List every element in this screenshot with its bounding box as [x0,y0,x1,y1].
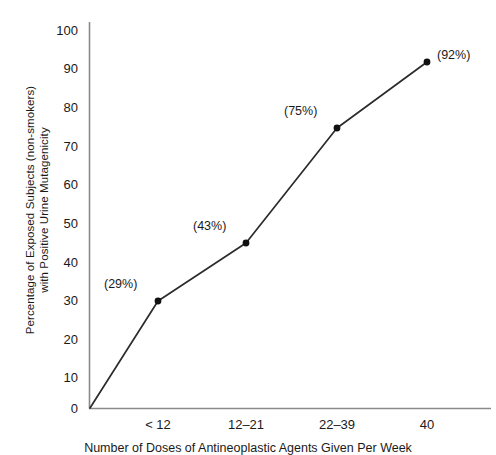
x-tick-label-12-21: 12–21 [201,418,291,431]
y-tick-label: 100 [44,24,78,37]
y-tick-label: 40 [44,256,78,269]
point-label-29: (29%) [104,278,137,291]
y-tick-label: 0 [44,402,78,415]
x-axis-title: Number of Doses of Antineoplastic Agents… [0,441,496,455]
point-label-92: (92%) [437,49,470,62]
x-tick-label-40: 40 [382,418,472,431]
data-series-line [90,62,427,408]
data-point-marker [155,298,162,305]
data-point-marker [424,59,431,66]
point-label-75: (75%) [284,105,317,118]
point-label-43: (43%) [193,220,226,233]
y-tick-label: 20 [44,333,78,346]
y-tick-label: 80 [44,101,78,114]
y-tick-label: 70 [44,140,78,153]
y-tick-label: 50 [44,217,78,230]
y-tick-label: 10 [44,371,78,384]
data-point-marker [243,240,250,247]
x-tick-label-22-39: 22–39 [292,418,382,431]
y-tick-label: 60 [44,178,78,191]
x-tick-label-lt12: < 12 [113,418,203,431]
data-point-marker [334,125,341,132]
y-tick-label: 30 [44,294,78,307]
y-tick-label: 90 [44,62,78,75]
